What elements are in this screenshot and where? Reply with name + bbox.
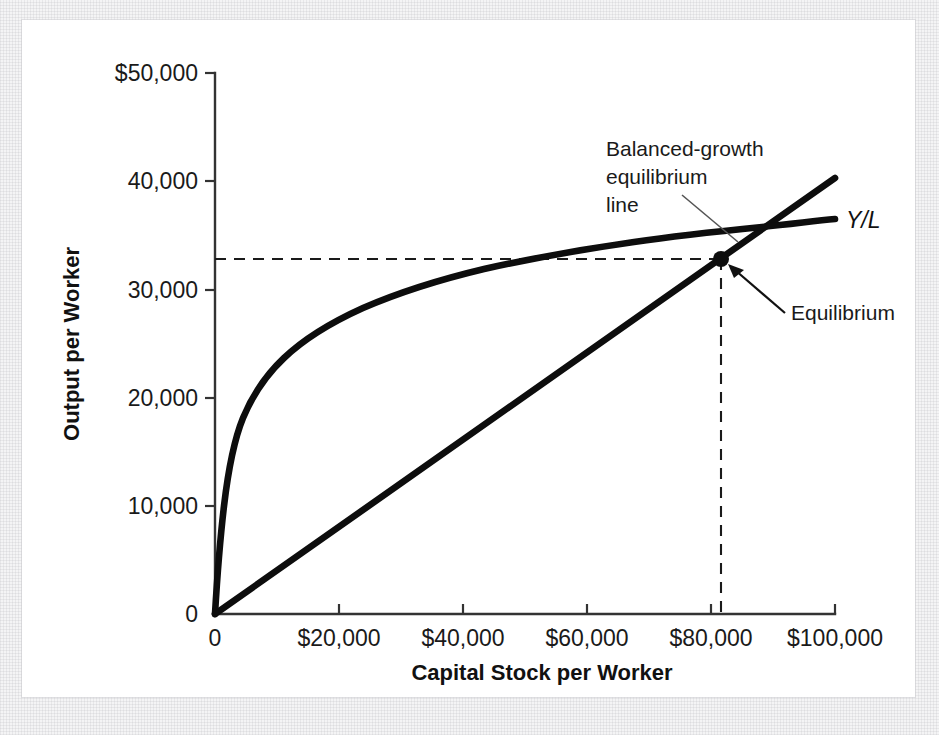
x-tick-label-20000: $20,000 xyxy=(297,625,380,651)
x-tick-label-100000: $100,000 xyxy=(787,625,883,651)
x-tick-label-60000: $60,000 xyxy=(545,625,628,651)
balanced-growth-label-line1: Balanced-growth xyxy=(606,137,764,160)
y-tick-label-30000: 30,000 xyxy=(128,277,198,303)
production-function-curve xyxy=(215,219,835,614)
x-tick-label-0: 0 xyxy=(209,625,222,651)
balanced-growth-label-line3: line xyxy=(606,193,639,216)
y-axis-title: Output per Worker xyxy=(59,247,84,441)
page-background: $50,000 40,000 30,000 20,000 10,000 0 0 … xyxy=(0,0,939,735)
equilibrium-point-dot xyxy=(713,251,729,267)
x-tick-label-40000: $40,000 xyxy=(421,625,504,651)
series-label-yl: Y/L xyxy=(846,207,881,233)
y-tick-label-0: 0 xyxy=(185,601,198,627)
equilibrium-arrow-line xyxy=(735,270,785,313)
chart-svg: $50,000 40,000 30,000 20,000 10,000 0 0 … xyxy=(22,20,915,697)
y-tick-label-20000: 20,000 xyxy=(128,385,198,411)
x-axis-title: Capital Stock per Worker xyxy=(411,660,673,685)
y-tick-label-40000: 40,000 xyxy=(128,168,198,194)
y-tick-label-10000: 10,000 xyxy=(128,493,198,519)
figure-panel: $50,000 40,000 30,000 20,000 10,000 0 0 … xyxy=(22,20,915,697)
balanced-growth-label-line2: equilibrium xyxy=(606,165,708,188)
chart-area: $50,000 40,000 30,000 20,000 10,000 0 0 … xyxy=(22,20,915,697)
equilibrium-label: Equilibrium xyxy=(791,301,895,324)
y-tick-label-50000: $50,000 xyxy=(115,60,198,86)
balanced-growth-line xyxy=(215,178,835,614)
x-tick-label-80000: $80,000 xyxy=(669,625,752,651)
